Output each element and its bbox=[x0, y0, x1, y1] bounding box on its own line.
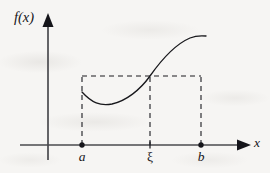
y-axis-arrowhead bbox=[43, 13, 54, 27]
x-axis-arrowhead bbox=[237, 140, 251, 151]
tick-label-b: b bbox=[191, 150, 211, 164]
function-curve bbox=[82, 36, 206, 105]
function-graph-figure: f(x) x a ξ b bbox=[0, 0, 270, 173]
tick-label-xi: ξ bbox=[140, 150, 160, 164]
tick-label-a: a bbox=[72, 150, 92, 164]
tick-marker-b bbox=[198, 142, 203, 147]
tick-marker-a bbox=[79, 142, 84, 147]
plot-canvas bbox=[0, 0, 270, 173]
axis-lines bbox=[20, 22, 242, 160]
x-axis-label: x bbox=[254, 136, 260, 150]
y-axis-label: f(x) bbox=[14, 10, 34, 25]
